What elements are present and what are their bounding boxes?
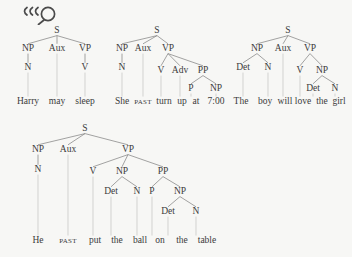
tree-node-pp: PP [158,166,169,176]
terminal-word: the [316,96,328,106]
tree-canvas: SNPAuxVPNVSNPAuxVPNVAdvPPPNPSNPAuxVPDetN… [0,0,352,257]
tree-node-p: P [188,83,193,93]
terminal-word: PAST [134,98,152,106]
tree-branch [128,155,163,167]
terminal-word: He [32,235,43,245]
branch-layer [28,36,335,207]
tree-node-s: S [285,25,290,35]
syntax-tree-diagram: SNPAuxVPNVSNPAuxVPNVAdvPPPNPSNPAuxVPDetN… [0,0,352,257]
tree-node-aux: Aux [60,144,77,154]
tree-branch [310,54,322,66]
terminal-word: will [278,96,293,106]
tree-node-vp: VP [304,43,316,53]
terminal-word: 7:00 [208,96,225,106]
tree-node-np: NP [316,65,328,75]
tree-node-det: Det [104,186,118,196]
terminal-word: ball [133,235,148,245]
terminal-layer: HarrymaysleepShePASTturnupat7:00Theboywi… [17,96,346,245]
node-layer: SNPAuxVPNVSNPAuxVPNVAdvPPPNPSNPAuxVPDetN… [22,25,339,216]
tree-node-np: NP [174,186,186,196]
tree-node-v: V [90,166,97,176]
tree-node-n: N [119,62,126,72]
tree-node-np: NP [251,43,263,53]
tree-node-np: NP [22,43,34,53]
tree-node-v: V [158,65,165,75]
tree-node-aux: Aux [135,43,152,53]
terminal-word: girl [332,96,346,106]
tree-node-np: NP [116,166,128,176]
terminal-word: sleep [75,96,95,106]
tree-node-n: N [193,206,200,216]
tree-node-s: S [54,25,59,35]
tree-node-np: NP [32,144,44,154]
tree-node-np: NP [116,43,128,53]
tree-node-vp: VP [79,43,91,53]
tree-node-n: N [265,62,272,72]
tree-node-vp: VP [162,43,174,53]
terminal-word: put [89,235,102,245]
tree-branch [300,54,310,66]
tree-node-det: Det [236,62,250,72]
tree-branch [161,54,168,66]
magnifier-icon[interactable] [18,3,62,25]
tree-node-p: P [149,186,154,196]
terminal-word: She [115,96,129,106]
terminal-word: boy [258,96,273,106]
tree-node-pp: PP [198,65,209,75]
tree-node-det: Det [306,83,320,93]
tree-node-np: NP [210,83,222,93]
tree-node-aux: Aux [49,43,66,53]
terminal-word: may [49,96,66,106]
tree-node-s: S [82,123,87,133]
terminal-word: Harry [17,96,39,106]
terminal-word: love [295,96,311,106]
tree-node-adv: Adv [172,65,189,75]
terminal-word: at [193,96,200,106]
terminal-word: The [234,96,249,106]
terminal-word: on [155,235,165,245]
terminal-word: the [176,235,188,245]
tree-node-v: V [297,65,304,75]
tree-node-n: N [134,186,141,196]
terminal-word: PAST [59,237,77,245]
terminal-word: table [198,235,216,245]
terminal-word: up [177,96,187,106]
tree-node-vp: VP [122,144,134,154]
terminal-word: the [111,235,123,245]
tree-node-det: Det [161,206,175,216]
tree-node-s: S [154,25,159,35]
tree-node-v: V [82,62,89,72]
tree-node-aux: Aux [275,43,292,53]
tree-node-n: N [25,62,32,72]
tree-branch [168,54,203,66]
tree-node-n: N [332,83,339,93]
terminal-word: turn [156,96,172,106]
tree-node-n: N [35,164,42,174]
